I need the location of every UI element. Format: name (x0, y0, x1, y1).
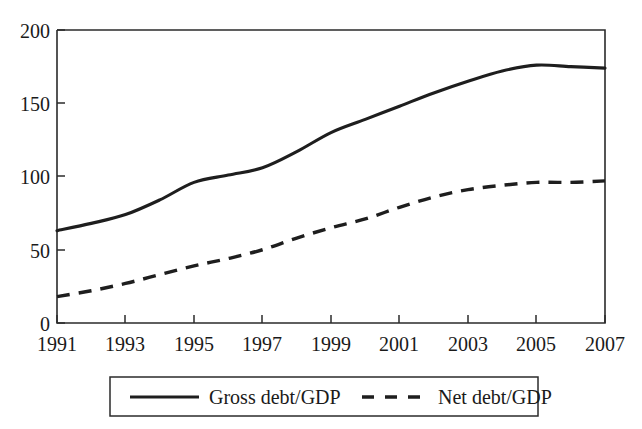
debt-to-gdp-line-chart: 200 150 100 50 0 1991 1993 1995 1997 199… (0, 0, 642, 429)
x-axis-label-2003: 2003 (448, 333, 488, 355)
x-axis-label-2007: 2007 (585, 333, 625, 355)
y-axis-label-50: 50 (30, 240, 50, 262)
legend-label-net-debt-gdp: Net debt/GDP (438, 386, 552, 408)
x-axis-label-1997: 1997 (242, 333, 282, 355)
x-axis-label-2005: 2005 (516, 333, 556, 355)
y-axis-label-200: 200 (20, 20, 50, 42)
chart-figure: 200 150 100 50 0 1991 1993 1995 1997 199… (0, 0, 642, 429)
x-axis-label-1993: 1993 (105, 333, 145, 355)
y-axis-label-100: 100 (20, 166, 50, 188)
x-axis-label-1995: 1995 (174, 333, 214, 355)
legend-label-gross-debt-gdp: Gross debt/GDP (209, 386, 341, 408)
x-axis-labels: 1991 1993 1995 1997 1999 2001 2003 2005 … (37, 333, 625, 355)
x-axis-label-2001: 2001 (379, 333, 419, 355)
x-axis-label-1991: 1991 (37, 333, 77, 355)
chart-legend: Gross debt/GDP Net debt/GDP (110, 377, 552, 416)
x-axis-label-1999: 1999 (311, 333, 351, 355)
y-axis-label-0: 0 (40, 313, 50, 335)
y-axis-label-150: 150 (20, 93, 50, 115)
